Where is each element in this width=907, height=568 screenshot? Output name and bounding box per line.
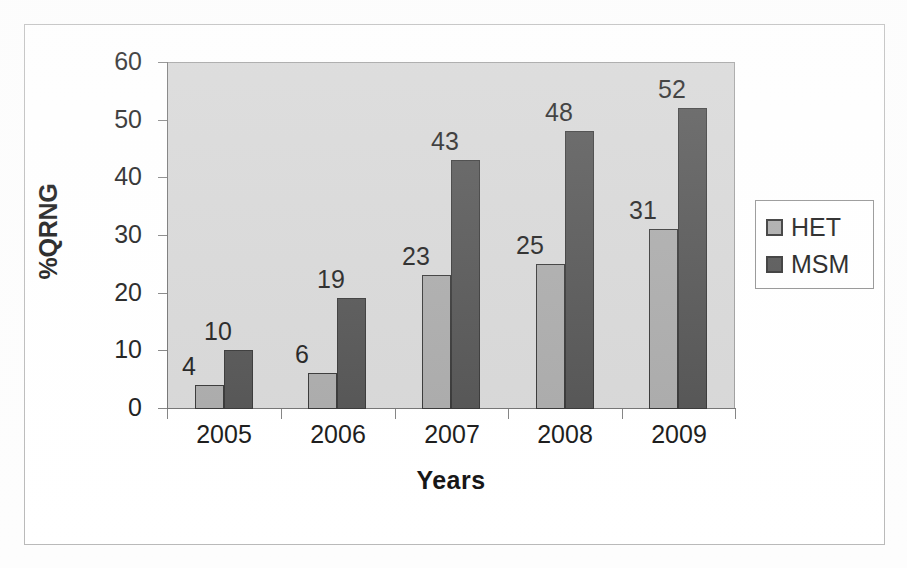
x-tick-boundary-2 (395, 409, 396, 419)
bar-het-2006 (308, 373, 337, 409)
y-axis-title: %QRNG (28, 155, 68, 315)
x-tick-label-2009: 2009 (622, 421, 736, 449)
x-tick-boundary-1 (281, 409, 282, 419)
bar-value-label-het-2007: 23 (393, 244, 439, 269)
bar-msm-2005 (224, 350, 253, 409)
y-tick-label-20: 20 (88, 280, 142, 305)
bar-value-label-het-2005: 4 (166, 354, 212, 379)
bar-msm-2006 (337, 298, 366, 409)
bar-msm-2009 (678, 108, 707, 409)
y-tick-label-10: 10 (88, 337, 142, 362)
bar-het-2007 (422, 275, 451, 409)
bar-msm-2008 (565, 131, 594, 409)
legend-swatch-het (766, 219, 783, 236)
x-tick-boundary-3 (508, 409, 509, 419)
y-tick-label-60: 60 (88, 49, 142, 74)
x-tick-label-2006: 2006 (281, 421, 395, 449)
legend: HET MSM (755, 200, 874, 289)
bar-value-label-het-2008: 25 (507, 233, 553, 258)
x-tick-boundary-5 (735, 409, 736, 419)
legend-swatch-msm (766, 256, 783, 273)
bar-value-label-msm-2005: 10 (195, 319, 241, 344)
y-tick-20 (158, 293, 167, 294)
bar-msm-2007 (451, 160, 480, 409)
bar-het-2008 (536, 264, 565, 409)
y-tick-30 (158, 235, 167, 236)
x-tick-label-2005: 2005 (167, 421, 281, 449)
y-tick-10 (158, 350, 167, 351)
legend-entry-het: HET (766, 215, 841, 240)
x-tick-label-2008: 2008 (508, 421, 622, 449)
x-tick-boundary-0 (167, 409, 168, 419)
y-tick-0 (158, 408, 167, 409)
y-tick-label-0: 0 (88, 395, 142, 420)
x-tick-boundary-4 (622, 409, 623, 419)
x-axis-title: Years (167, 466, 735, 495)
legend-label-msm: MSM (791, 252, 849, 277)
y-tick-label-30: 30 (88, 222, 142, 247)
y-axis-title-text: %QRNG (34, 154, 63, 309)
bar-value-label-het-2009: 31 (620, 198, 666, 223)
chart-screenshot: 0 10 20 30 40 50 60 2005 2006 2007 2008 (0, 0, 907, 568)
bar-het-2009 (649, 229, 678, 409)
y-tick-50 (158, 120, 167, 121)
bar-value-label-msm-2009: 52 (649, 77, 695, 102)
bar-value-label-msm-2008: 48 (536, 100, 582, 125)
x-tick-label-2007: 2007 (395, 421, 509, 449)
bar-value-label-msm-2007: 43 (422, 129, 468, 154)
bar-value-label-het-2006: 6 (279, 342, 325, 367)
legend-entry-msm: MSM (766, 252, 849, 277)
bar-value-label-msm-2006: 19 (308, 267, 354, 292)
y-tick-label-40: 40 (88, 164, 142, 189)
bar-het-2005 (195, 385, 224, 409)
bar-chart: 0 10 20 30 40 50 60 2005 2006 2007 2008 (0, 0, 907, 568)
y-tick-60 (158, 62, 167, 63)
legend-label-het: HET (791, 215, 841, 240)
y-tick-40 (158, 177, 167, 178)
y-tick-label-50: 50 (88, 107, 142, 132)
